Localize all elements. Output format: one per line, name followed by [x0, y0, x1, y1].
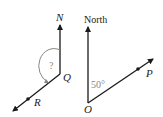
angle-50: 50°	[91, 79, 105, 90]
right-figure: North O P 50°	[84, 14, 153, 115]
label-r: R	[33, 96, 41, 108]
label-o: O	[84, 103, 92, 115]
point-p-dot	[136, 67, 140, 71]
label-q: Q	[63, 71, 71, 83]
label-p: P	[145, 67, 153, 79]
angle-unknown: ?	[49, 60, 54, 71]
bearings-diagram: N Q R ? North O P 50°	[0, 0, 163, 117]
point-r-dot	[26, 97, 30, 101]
left-figure: N Q R ?	[13, 11, 71, 111]
label-north: North	[84, 14, 107, 25]
label-n: N	[55, 11, 64, 23]
